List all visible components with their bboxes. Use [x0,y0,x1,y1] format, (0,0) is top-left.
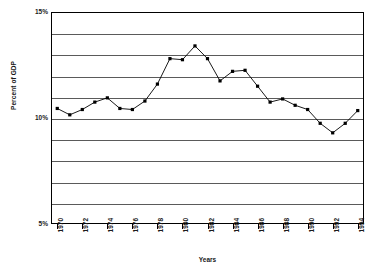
data-point-marker [168,57,171,60]
x-axis-tick-label: 1986 [258,217,265,243]
x-axis-tick-labels: 1970197219741976197819801982198419861988… [51,230,364,256]
data-point-marker [181,58,184,61]
data-point-marker [356,109,359,112]
data-point-marker [118,107,121,110]
x-axis-tick-label: 1990 [308,217,315,243]
data-point-marker [243,69,246,72]
x-axis-tick-label: 1994 [358,217,365,243]
data-point-marker [218,79,221,82]
data-point-marker [56,107,59,110]
data-point-marker [93,101,96,104]
chart-screenshot: Percent of GDP 15%10%5% 1970197219741976… [0,0,382,271]
data-point-marker [294,104,297,107]
data-series [51,12,364,224]
y-axis-tick-label: 5% [6,221,48,228]
data-point-marker [206,57,209,60]
data-point-marker [143,99,146,102]
x-axis-tick-label: 1972 [82,217,89,243]
y-axis-tick-labels: 15%10%5% [0,0,48,271]
data-point-marker [281,97,284,100]
data-point-marker [193,44,196,47]
x-axis-tick-label: 1988 [283,217,290,243]
x-axis-tick-label: 1982 [208,217,215,243]
data-point-marker [231,70,234,73]
x-axis-tick-label: 1976 [132,217,139,243]
x-axis-tick-label: 1992 [333,217,340,243]
x-axis-tick-label: 1978 [157,217,164,243]
data-point-marker [156,82,159,85]
data-point-marker [68,113,71,116]
x-axis-tick-label: 1974 [107,217,114,243]
y-axis-tick-label: 10% [6,115,48,122]
y-axis-tick-label: 15% [6,9,48,16]
data-point-marker [131,108,134,111]
data-point-marker [319,122,322,125]
x-axis-tick-label: 1970 [57,217,64,243]
data-point-marker [331,131,334,134]
data-point-marker [344,122,347,125]
data-point-marker [81,108,84,111]
data-point-marker [269,101,272,104]
data-point-marker [256,85,259,88]
x-axis-title: Years [51,256,364,263]
data-point-marker [306,108,309,111]
x-axis-tick-label: 1980 [182,217,189,243]
x-axis-tick-label: 1984 [233,217,240,243]
data-point-marker [106,96,109,99]
